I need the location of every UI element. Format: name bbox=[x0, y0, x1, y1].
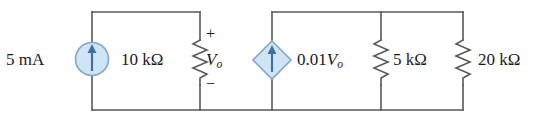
resistor-10k-zigzag bbox=[193, 40, 207, 85]
circuit-schematic-canvas bbox=[0, 0, 547, 124]
resistor-20k-zigzag bbox=[456, 40, 470, 85]
resistor-5k-zigzag bbox=[374, 40, 388, 85]
voltage-subscript: o bbox=[216, 58, 222, 71]
dependent-source-variable: V bbox=[327, 50, 337, 69]
label-independent-source: 5 mA bbox=[6, 51, 44, 68]
independent-current-source-symbol bbox=[76, 43, 109, 76]
label-voltage-vo: Vo bbox=[206, 51, 222, 68]
voltage-symbol: V bbox=[206, 50, 216, 69]
label-polarity-plus: + bbox=[206, 26, 215, 42]
label-resistor-20k: 20 kΩ bbox=[478, 51, 520, 68]
dependent-source-subscript: o bbox=[337, 58, 343, 71]
label-dependent-source: 0.01Vo bbox=[297, 51, 343, 68]
label-resistor-10k: 10 kΩ bbox=[121, 51, 163, 68]
dependent-current-source-symbol bbox=[253, 41, 291, 79]
label-polarity-minus: − bbox=[206, 76, 215, 92]
dependent-source-coefficient: 0.01 bbox=[297, 50, 327, 69]
circuit-diagram: 5 mA 10 kΩ + Vo − 0.01Vo 5 kΩ 20 kΩ bbox=[0, 0, 547, 124]
label-resistor-5k: 5 kΩ bbox=[393, 51, 427, 68]
